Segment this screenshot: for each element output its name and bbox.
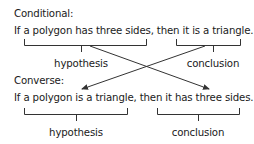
conditional-conclusion-bracket	[177, 39, 241, 52]
arrow-hypothesis-to-conclusion	[90, 46, 209, 89]
converse-hypothesis-bracket	[25, 108, 128, 121]
diagram-lines	[0, 0, 254, 144]
arrow-conclusion-to-hypothesis	[82, 46, 205, 89]
converse-conclusion-bracket	[158, 108, 240, 121]
conditional-hypothesis-bracket	[25, 39, 147, 52]
